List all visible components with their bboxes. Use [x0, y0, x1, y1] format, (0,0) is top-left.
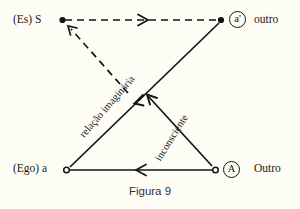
node-label-outro-capitalized: Outro [254, 163, 281, 175]
edge-a-prime-to-ego-a [70, 23, 219, 167]
node-symbol-big-a: A [223, 161, 240, 178]
arrowhead-down-left [135, 95, 144, 106]
arrowhead-up-left [68, 26, 77, 35]
edge-s-to-a-prime [65, 15, 219, 26]
node-marker-es-s [59, 17, 65, 23]
figure-caption: Figura 9 [0, 186, 300, 198]
node-symbol-a-prime: a' [229, 11, 246, 28]
node-marker-big-a [213, 167, 219, 173]
diagram-canvas [0, 0, 300, 209]
node-marker-ego-a [64, 167, 70, 173]
edge-big-a-to-ego-a [70, 165, 212, 176]
node-label-es-s: (Es) S [13, 14, 41, 26]
node-label-outro-lowercase: outro [254, 14, 278, 26]
schema-l-figure: (Es) S a' outro (Ego) a A Outro relação … [0, 0, 300, 209]
node-label-ego-a: (Ego) a [13, 163, 47, 175]
node-marker-a-prime [218, 17, 224, 23]
